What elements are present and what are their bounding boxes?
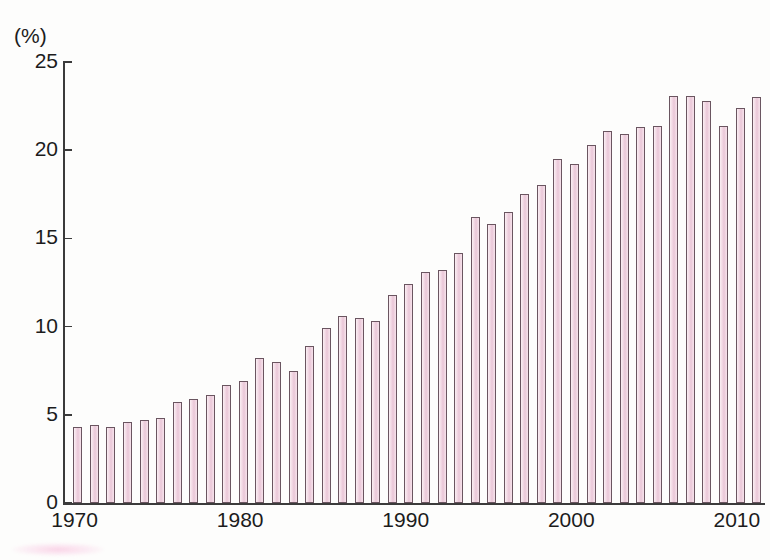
- bar-1992: [438, 270, 447, 503]
- bar-1994: [471, 217, 480, 503]
- bar-1996: [504, 212, 513, 503]
- bar-1983: [289, 371, 298, 503]
- y-tick-label-5: 5: [0, 403, 58, 424]
- bar-2009: [719, 126, 728, 503]
- bar-2005: [653, 126, 662, 503]
- bar-2007: [686, 96, 695, 503]
- bar-2011: [752, 97, 761, 503]
- y-tick-label-10: 10: [0, 315, 58, 336]
- bar-1973: [123, 422, 132, 503]
- y-tick-label-20: 20: [0, 138, 58, 159]
- bar-1977: [189, 399, 198, 503]
- bar-1975: [156, 418, 165, 503]
- bar-2010: [736, 108, 745, 503]
- x-tick-label-2000: 2000: [548, 508, 595, 532]
- y-tick-label-25: 25: [0, 50, 58, 71]
- bar-1970: [73, 427, 82, 503]
- bar-1979: [222, 385, 231, 503]
- bar-1991: [421, 272, 430, 503]
- bar-1976: [173, 402, 182, 503]
- bar-1985: [322, 328, 331, 503]
- bar-1987: [355, 318, 364, 503]
- bar-2008: [702, 101, 711, 503]
- bar-1971: [90, 425, 99, 503]
- x-tick-label-1970: 1970: [51, 508, 98, 532]
- bar-1986: [338, 316, 347, 503]
- bar-1980: [239, 381, 248, 503]
- bar-1995: [487, 224, 496, 503]
- bar-1974: [140, 420, 149, 503]
- bar-2000: [570, 164, 579, 503]
- x-axis-line: [63, 503, 765, 505]
- x-tick-label-1980: 1980: [217, 508, 264, 532]
- bar-2002: [603, 131, 612, 503]
- bar-1990: [404, 284, 413, 503]
- scan-artifact-smudge: [12, 543, 104, 556]
- bar-1993: [454, 253, 463, 503]
- y-axis-unit-label: (%): [14, 24, 47, 48]
- bar-2004: [636, 127, 645, 503]
- bar-1989: [388, 295, 397, 503]
- x-tick-label-2010: 2010: [713, 508, 760, 532]
- bar-1972: [106, 427, 115, 503]
- bar-chart: (%) 0510152025 19701980199020002010: [0, 0, 770, 560]
- bar-1988: [371, 321, 380, 503]
- x-tick-label-1990: 1990: [382, 508, 429, 532]
- bar-1999: [553, 159, 562, 503]
- bar-1998: [537, 185, 546, 503]
- bar-1984: [305, 346, 314, 503]
- y-tick-label-15: 15: [0, 226, 58, 247]
- bar-1997: [520, 194, 529, 503]
- bar-1978: [206, 395, 215, 503]
- bar-2006: [669, 96, 678, 503]
- bar-1982: [272, 362, 281, 503]
- bar-2001: [587, 145, 596, 503]
- bar-1981: [255, 358, 264, 503]
- y-tick-label-0: 0: [0, 491, 58, 512]
- bar-2003: [620, 134, 629, 503]
